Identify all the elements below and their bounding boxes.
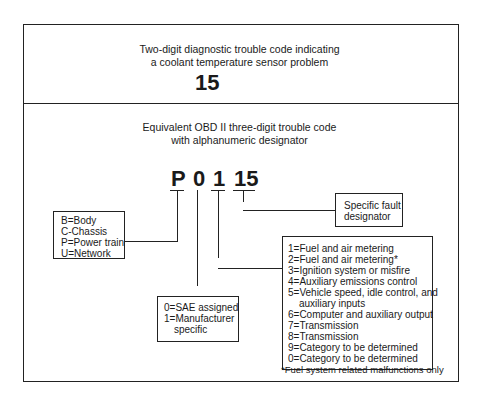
subsystem-1: 1=Fuel and air metering [288,243,432,254]
connector-p-horizontal [124,241,178,242]
fault-line1: Specific fault [344,200,402,211]
subsystem-0: 0=Category to be determined [288,353,432,364]
bottom-title-line1: Equivalent OBD II three-digit trouble co… [0,121,479,134]
system-network: U=Network [61,248,124,259]
connector-15-horizontal [243,210,335,211]
panel-divider [23,103,459,104]
connector-0-vertical [197,190,198,286]
subsystem-7: 7=Transmission [288,320,432,331]
subsystem-5-cont: auxiliary inputs [288,298,432,309]
connector-p-vertical [177,190,178,241]
system-box: B=Body C-Chassis P=Power train U=Network [53,211,125,259]
fault-designator-box: Specific fault designator [335,193,403,227]
two-digit-code: 15 [195,70,219,96]
system-powertrain: P=Power train [61,237,124,248]
bottom-title-line2: with alphanumeric designator [0,134,479,147]
code-digit-1: 1 [213,167,225,191]
top-title-line2: a coolant temperature sensor problem [0,56,479,69]
system-chassis: C-Chassis [61,226,124,237]
code-type-manufacturer: 1=Manufacturer [164,313,238,324]
code-type-box: 0=SAE assigned 1=Manufacturer specific [157,296,239,342]
subsystem-box: 1=Fuel and air metering 2=Fuel and air m… [282,236,433,370]
subsystem-3: 3=Ignition system or misfire [288,265,432,276]
code-letter-p: P [171,167,186,191]
subsystem-2: 2=Fuel and air metering* [288,254,432,265]
fault-line2: designator [344,211,402,222]
code-type-specific: specific [164,324,238,335]
top-title-line1: Two-digit diagnostic trouble code indica… [0,43,479,56]
subsystem-5: 5=Vehicle speed, idle control, and [288,287,432,298]
connector-1-horizontal [218,268,282,269]
connector-1-vertical [218,190,219,258]
footnote: *Fuel system related malfunctions only [281,364,444,375]
subsystem-6: 6=Computer and auxiliary output [288,309,432,320]
code-digits-15: 15 [234,167,258,191]
underline-15 [233,190,255,191]
connector-15-vertical [243,190,244,202]
subsystem-8: 8=Transmission [288,331,432,342]
code-type-sae: 0=SAE assigned [164,302,238,313]
system-body: B=Body [61,215,124,226]
code-digit-0: 0 [193,167,205,191]
subsystem-9: 9=Category to be determined [288,342,432,353]
subsystem-4: 4=Auxiliary emissions control [288,276,432,287]
